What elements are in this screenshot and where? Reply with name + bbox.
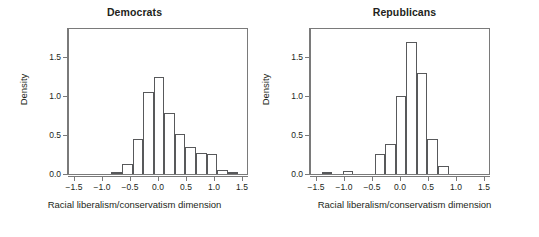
x-tick-4	[186, 176, 187, 181]
panel-title-republicans: Republicans	[270, 6, 539, 18]
histogram-bar	[217, 170, 228, 174]
x-axis-label-left: Racial liberalism/conservatism dimension	[0, 199, 269, 210]
x-tick-1	[344, 176, 345, 181]
histogram-bar	[196, 153, 207, 174]
x-tick-6	[484, 176, 485, 181]
histogram-bar	[185, 147, 196, 174]
x-tick-5	[214, 176, 215, 181]
histogram-bar	[122, 164, 133, 174]
plot-area-republicans	[310, 28, 490, 175]
x-tick-3	[158, 176, 159, 181]
x-tick-label-5: 1.0	[208, 182, 220, 192]
y-tick-label-0: 0.0	[291, 169, 303, 179]
x-tick-label-2: −0.5	[364, 182, 381, 192]
x-tick-0	[316, 176, 317, 181]
y-tick-label-2: 1.0	[291, 91, 303, 101]
y-tick-label-2: 1.0	[49, 91, 61, 101]
histogram-bar	[164, 113, 175, 174]
histogram-bar	[143, 92, 154, 174]
histogram-bar	[417, 73, 428, 174]
histogram-bar	[322, 172, 333, 174]
histogram-bar	[375, 154, 386, 174]
x-axis-right: −1.5 −1.0 −0.5 0.0 0.5 1.0 1.5	[310, 176, 490, 190]
x-tick-label-1: −1.0	[336, 182, 353, 192]
x-axis-left: −1.5 −1.0 −0.5 0.0 0.5 1.0 1.5	[68, 176, 248, 190]
x-tick-label-3: 0.0	[394, 182, 406, 192]
x-tick-label-1: −1.0	[94, 182, 111, 192]
bar-series-democrats	[69, 29, 247, 174]
x-tick-label-5: 1.0	[450, 182, 462, 192]
x-tick-4	[428, 176, 429, 181]
x-tick-5	[456, 176, 457, 181]
x-tick-label-0: −1.5	[308, 182, 325, 192]
x-tick-label-6: 1.5	[236, 182, 248, 192]
x-tick-label-3: 0.0	[152, 182, 164, 192]
histogram-bar	[228, 172, 239, 174]
bar-series-republicans	[311, 29, 489, 174]
y-tick-label-3: 1.5	[49, 52, 61, 62]
histogram-bar	[133, 139, 144, 175]
histogram-bar	[207, 154, 218, 174]
panel-republicans: Republicans 0.0 0.5 1.0 1.5 Density −1.5	[270, 0, 539, 237]
histogram-bar	[406, 42, 417, 174]
histogram-bar	[438, 166, 449, 174]
histogram-bar	[111, 172, 122, 174]
panel-title-democrats: Democrats	[0, 6, 269, 18]
y-axis-label-left: Density	[18, 60, 29, 120]
x-tick-2	[130, 176, 131, 181]
x-tick-label-0: −1.5	[66, 182, 83, 192]
histogram-bar	[385, 144, 396, 174]
y-tick-label-1: 0.5	[291, 130, 303, 140]
panel-democrats: Democrats 0.0 0.5 1.0 1.5 Density −1.5	[0, 0, 269, 237]
plot-area-democrats	[68, 28, 248, 175]
y-axis-right: 0.0 0.5 1.0 1.5	[300, 28, 310, 175]
x-tick-2	[372, 176, 373, 181]
x-tick-label-4: 0.5	[180, 182, 192, 192]
x-tick-0	[74, 176, 75, 181]
y-tick-label-3: 1.5	[291, 52, 303, 62]
two-panel-histogram-figure: Democrats 0.0 0.5 1.0 1.5 Density −1.5	[0, 0, 539, 237]
x-tick-1	[102, 176, 103, 181]
histogram-bar	[343, 171, 354, 174]
y-tick-label-0: 0.0	[49, 169, 61, 179]
x-tick-label-4: 0.5	[422, 182, 434, 192]
x-axis-label-right: Racial liberalism/conservatism dimension	[270, 199, 539, 210]
y-axis-label-right: Density	[260, 60, 271, 120]
y-axis-left: 0.0 0.5 1.0 1.5	[58, 28, 68, 175]
y-tick-label-1: 0.5	[49, 130, 61, 140]
x-tick-label-6: 1.5	[478, 182, 490, 192]
histogram-bar	[154, 77, 165, 174]
x-tick-6	[242, 176, 243, 181]
x-tick-3	[400, 176, 401, 181]
histogram-bar	[427, 139, 438, 174]
histogram-bar	[396, 96, 407, 174]
histogram-bar	[175, 134, 186, 174]
x-tick-label-2: −0.5	[122, 182, 139, 192]
